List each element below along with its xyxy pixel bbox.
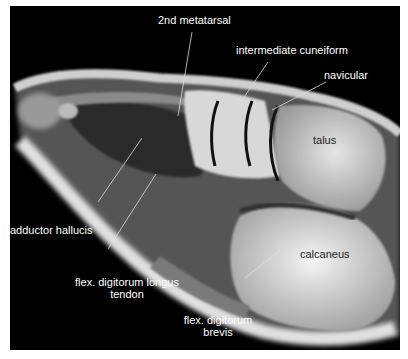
label-navicular: navicular — [324, 69, 368, 81]
label-fdl-line2: tendon — [47, 288, 207, 300]
label-fdl-line1: flex. digitorum longus — [47, 276, 207, 288]
label-intermediate-cuneiform: intermediate cuneiform — [236, 44, 348, 56]
mri-image: 2nd metatarsal intermediate cuneiform na… — [10, 6, 400, 350]
label-fdb-line1: flex. digitorum — [173, 314, 263, 326]
label-2nd-metatarsal: 2nd metatarsal — [158, 14, 231, 26]
label-flex-digitorum-longus: flex. digitorum longus tendon — [47, 276, 207, 300]
label-talus: talus — [313, 134, 336, 146]
label-calcaneus: calcaneus — [300, 248, 350, 260]
label-fdb-line2: brevis — [173, 326, 263, 338]
label-flex-digitorum-brevis: flex. digitorum brevis — [173, 314, 263, 338]
label-adductor-hallucis: adductor hallucis — [10, 224, 93, 236]
